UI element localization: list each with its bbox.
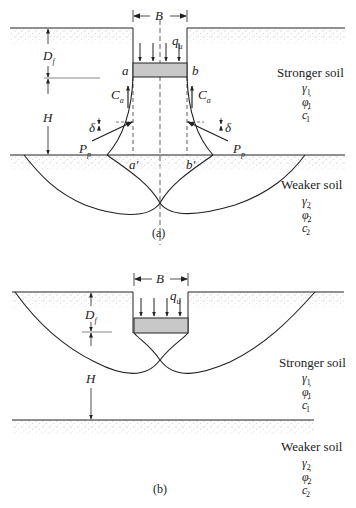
adhesion-label-left: Ca	[111, 88, 124, 105]
thickness-label-a: H	[43, 111, 52, 124]
adhesion-subscript: a	[207, 96, 211, 105]
passive-symbol: P	[79, 141, 87, 156]
load-subscript: u	[179, 42, 183, 51]
delta-label-right: δ	[225, 121, 231, 134]
param-subscript: 2	[306, 490, 310, 499]
base-label-a-prime: a'	[129, 158, 138, 171]
upper-soil-param-c-a: c′1	[302, 108, 310, 124]
adhesion-subscript: a	[120, 96, 124, 105]
delta-label-left: δ	[89, 121, 95, 134]
passive-label-left: Pp	[79, 142, 91, 159]
caption-b: (b)	[153, 483, 167, 495]
thickness-label-b: H	[86, 372, 95, 385]
upper-soil-name-a: Stronger soil	[277, 66, 344, 79]
passive-label-right: Pp	[233, 142, 245, 159]
depth-subscript: f	[94, 316, 96, 325]
load-subscript: u	[177, 297, 181, 306]
depth-subscript: f	[52, 57, 54, 66]
lower-soil-param-c-b: c′2	[302, 483, 310, 499]
param-subscript: 2	[306, 228, 310, 237]
lower-soil-name-a: Weaker soil	[281, 178, 342, 191]
depth-label-a: Df	[43, 49, 55, 66]
passive-subscript: p	[241, 150, 245, 159]
load-label-b: qu	[170, 289, 181, 306]
adhesion-label-right: Ca	[198, 88, 211, 105]
depth-label-b: Df	[85, 308, 97, 325]
base-label-b-prime: b'	[186, 158, 195, 171]
depth-symbol: D	[85, 307, 94, 322]
upper-soil-name-b: Stronger soil	[279, 356, 346, 369]
upper-soil-param-c-b: c′1	[302, 398, 310, 414]
caption-a: (a)	[152, 227, 165, 239]
width-label-b: B	[156, 272, 164, 285]
passive-symbol: P	[233, 141, 241, 156]
lower-soil-name-b: Weaker soil	[281, 440, 342, 453]
adhesion-symbol: C	[111, 87, 120, 102]
param-subscript: 1	[306, 405, 310, 414]
footing	[133, 63, 187, 77]
load-label-a: qu	[172, 34, 183, 51]
depth-symbol: D	[43, 48, 52, 63]
lower-soil-param-c-a: c′2	[302, 221, 310, 237]
corner-label-a: a	[122, 64, 129, 77]
footing-b	[134, 318, 188, 333]
adhesion-symbol: C	[198, 87, 207, 102]
corner-label-b: b	[192, 64, 199, 77]
width-label-a: B	[155, 9, 163, 22]
passive-subscript: p	[87, 150, 91, 159]
param-subscript: 1	[306, 115, 310, 124]
